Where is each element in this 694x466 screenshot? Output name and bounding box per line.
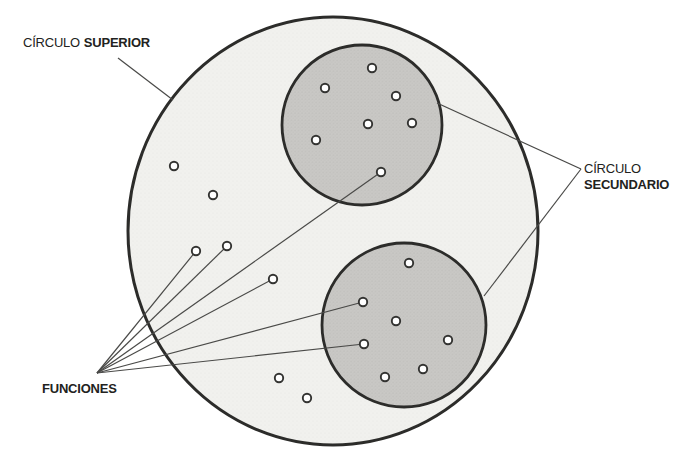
function-dot-lower-7 xyxy=(381,373,389,381)
function-dot-upper-5 xyxy=(408,119,416,127)
function-dot-free-4 xyxy=(223,242,231,250)
function-dot-free-6 xyxy=(275,374,283,382)
superior-leader-line xyxy=(118,58,173,100)
function-dot-lower-4 xyxy=(444,336,452,344)
label-circulo-superior-word2: SUPERIOR xyxy=(84,35,150,50)
function-dot-lower-2 xyxy=(359,298,367,306)
lower-secondary-circle-texture xyxy=(322,243,486,407)
label-circulo-secundario-line1: CÍRCULO xyxy=(584,161,669,177)
function-dot-free-2 xyxy=(209,191,217,199)
diagram-shapes xyxy=(97,17,581,445)
label-circulo-secundario: CÍRCULO SECUNDARIO xyxy=(584,161,669,192)
function-dot-free-1 xyxy=(170,162,178,170)
function-dot-upper-4 xyxy=(364,120,372,128)
function-dot-lower-1 xyxy=(405,259,413,267)
label-circulo-superior: CÍRCULOSUPERIOR xyxy=(23,35,150,51)
function-dot-free-3 xyxy=(192,247,200,255)
function-dot-free-7 xyxy=(303,394,311,402)
upper-secondary-circle-texture xyxy=(282,45,442,205)
diagram-page: CÍRCULOSUPERIOR CÍRCULO SECUNDARIO FUNCI… xyxy=(0,0,694,466)
function-dot-upper-1 xyxy=(368,64,376,72)
function-dot-lower-5 xyxy=(360,340,368,348)
label-funciones: FUNCIONES xyxy=(42,381,117,397)
function-dot-upper-6 xyxy=(312,136,320,144)
label-circulo-superior-word1: CÍRCULO xyxy=(23,35,80,50)
function-dot-upper-3 xyxy=(392,92,400,100)
function-dot-free-5 xyxy=(269,275,277,283)
function-dot-upper-7 xyxy=(377,168,385,176)
function-dot-lower-6 xyxy=(419,365,427,373)
function-dot-lower-3 xyxy=(392,317,400,325)
label-circulo-secundario-line2: SECUNDARIO xyxy=(584,177,669,193)
function-dot-upper-2 xyxy=(321,84,329,92)
